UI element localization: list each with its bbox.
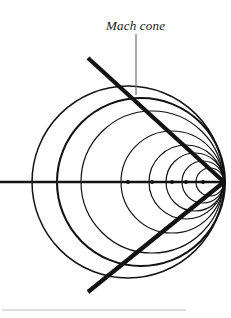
source-dot-4: [184, 180, 188, 184]
source-dot-3: [170, 180, 174, 184]
source-dot-1: [126, 180, 130, 184]
source-dot-5: [201, 180, 205, 184]
mach-cone-label: Mach cone: [106, 18, 165, 34]
source-dot-2: [150, 180, 154, 184]
mach-cone-diagram: [0, 0, 231, 318]
